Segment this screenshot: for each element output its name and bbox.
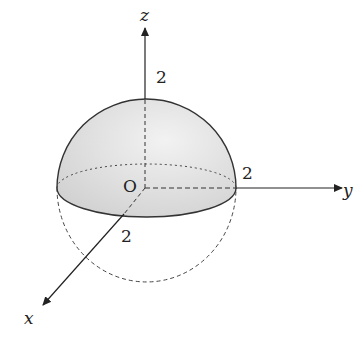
x-axis-label: x [24,308,34,328]
x-axis [43,214,124,305]
origin-label: O [123,176,137,196]
z-radius-label: 2 [156,67,167,87]
x-radius-label: 2 [121,226,132,246]
hemisphere-diagram: z y x O 2 2 2 [0,0,360,338]
upper-hemisphere [57,99,236,217]
y-radius-label: 2 [242,163,253,183]
z-axis-label: z [139,5,150,25]
y-axis-label: y [342,180,353,200]
